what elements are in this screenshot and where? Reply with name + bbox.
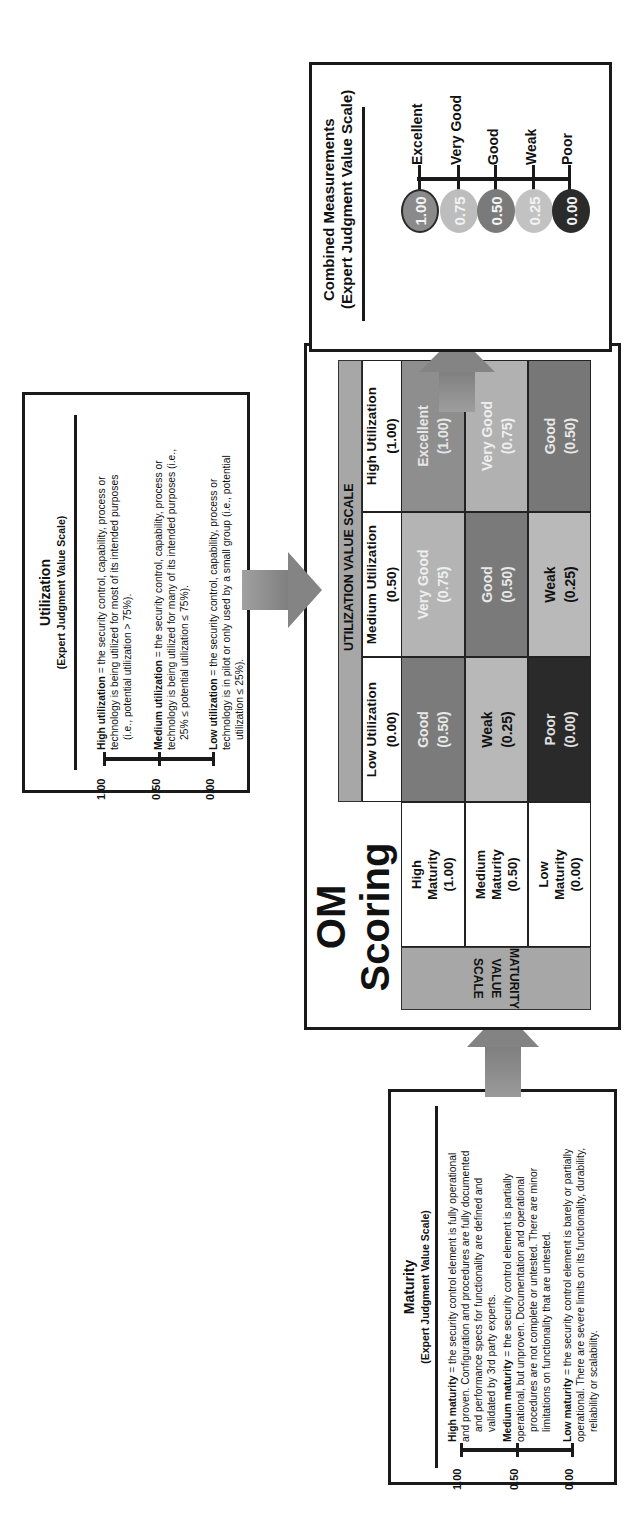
cell-score: (0.75) xyxy=(433,566,453,603)
row-header-medium-maturity: Medium Maturity (0.50) xyxy=(465,802,528,947)
desc-line: = the security control, capability, proc… xyxy=(96,476,107,676)
score-circle-0-00: 0.00 xyxy=(552,189,590,233)
utilization-high-desc: High utilization = the security control,… xyxy=(95,395,134,750)
combined-tick xyxy=(568,165,571,191)
combined-tick xyxy=(457,165,460,191)
desc-line: = the security control, capability, proc… xyxy=(153,460,164,660)
maturity-subtitle: (Expert Judgment Value Scale) xyxy=(419,1092,431,1482)
score-circle-1-00: 1.00 xyxy=(401,189,439,233)
cell-high-maturity-medium-utilization: Very Good (0.75) xyxy=(401,512,465,657)
utilization-value-low: 0.00 xyxy=(204,779,216,800)
utilization-tick-0 xyxy=(212,752,215,766)
cell-rating: Good xyxy=(413,711,433,748)
maturity-title-rule xyxy=(435,1106,438,1468)
score-circle-0-75: 0.75 xyxy=(440,189,478,233)
cell-score: (0.25) xyxy=(497,711,517,748)
row-header-low-maturity: Low Maturity (0.00) xyxy=(528,802,591,947)
utilization-value-high: 1.00 xyxy=(95,779,107,800)
om-scoring-matrix-box: OM Scoring Matrix MATURITY VALUE SCALE H… xyxy=(304,343,621,1030)
maturity-header-line1: MATURITY xyxy=(505,948,523,1009)
col-value: (0.00) xyxy=(382,712,402,747)
desc-line: limitations on functionality that are un… xyxy=(540,1092,553,1442)
desc-line: technology is being utilized for most of… xyxy=(108,395,121,750)
cell-score: (0.75) xyxy=(497,418,517,455)
maturity-medium-term: Medium maturity xyxy=(502,1360,513,1442)
combined-title-rule xyxy=(362,107,365,321)
col-header-medium-utilization: Medium Utilization (0.50) xyxy=(362,512,402,657)
circle-value: 0.75 xyxy=(451,196,468,225)
cell-low-maturity-medium-utilization: Weak (0.25) xyxy=(528,512,591,657)
row-label: Maturity xyxy=(489,849,505,900)
col-label: High Utilization xyxy=(362,387,382,485)
row-label: High xyxy=(409,860,425,889)
utilization-tick-050 xyxy=(158,752,161,766)
utilization-low-term: Low utilization xyxy=(208,679,219,751)
combined-label-good: Good xyxy=(485,128,501,165)
maturity-title: Maturity xyxy=(401,1092,417,1482)
cell-rating: Very Good xyxy=(413,549,433,619)
desc-line: = the security control, capability, proc… xyxy=(208,479,219,679)
utilization-title: Utilization xyxy=(37,395,53,790)
cell-rating: Good xyxy=(540,418,560,455)
maturity-high-term: High maturity xyxy=(447,1376,458,1442)
cell-low-maturity-high-utilization: Good (0.50) xyxy=(528,360,591,512)
cell-high-maturity-low-utilization: Good (0.50) xyxy=(401,657,465,802)
maturity-tick-1 xyxy=(460,1443,463,1457)
col-header-high-utilization: High Utilization (1.00) xyxy=(362,360,402,512)
row-label: Maturity xyxy=(425,849,441,900)
cell-rating: Weak xyxy=(540,566,560,602)
row-label: Low xyxy=(536,862,552,888)
combined-label-excellent: Excellent xyxy=(409,104,425,165)
row-value: (0.00) xyxy=(568,858,584,892)
cell-score: (1.00) xyxy=(433,418,453,455)
col-label: Low Utilization xyxy=(362,682,382,777)
cell-rating: Good xyxy=(477,566,497,603)
combined-tick xyxy=(532,165,535,191)
cell-rating: Weak xyxy=(477,711,497,747)
matrix-title-line1: OM Scoring xyxy=(309,817,397,1017)
desc-line: procedures are not complete or untested.… xyxy=(527,1092,540,1442)
maturity-value-scale-header: MATURITY VALUE SCALE xyxy=(401,947,591,1010)
desc-line: = the security control element is barely… xyxy=(562,1149,573,1378)
desc-line: (i.e., potential utilization > 75%). xyxy=(121,395,134,750)
maturity-tick-050 xyxy=(516,1443,519,1457)
cell-medium-maturity-low-utilization: Weak (0.25) xyxy=(465,657,528,802)
utilization-title-rule xyxy=(74,415,77,770)
maturity-medium-desc: Medium maturity = the security control e… xyxy=(501,1092,553,1442)
circle-value: 1.00 xyxy=(412,196,429,225)
utilization-high-term: High utilization xyxy=(96,676,107,750)
cell-score: (0.50) xyxy=(560,418,580,455)
maturity-scale-box: Maturity (Expert Judgment Value Scale) 1… xyxy=(388,1089,617,1485)
desc-line: technology is being utilized for many of… xyxy=(165,395,178,750)
row-label: Maturity xyxy=(552,849,568,900)
maturity-high-desc: High maturity = the security control ele… xyxy=(446,1092,498,1442)
desc-line: technology is in pilot or only used by a… xyxy=(220,395,233,750)
utilization-medium-term: Medium utilization xyxy=(153,660,164,750)
utilization-scale-box: Utilization (Expert Judgment Value Scale… xyxy=(22,392,250,793)
row-value: (1.00) xyxy=(441,858,457,892)
cell-low-maturity-low-utilization: Poor (0.00) xyxy=(528,657,591,802)
desc-line: operational, but unproven. Documentation… xyxy=(514,1092,527,1442)
desc-line: validated by 3rd party experts. xyxy=(485,1092,498,1442)
combined-tick xyxy=(418,165,421,191)
combined-title: Combined Measurements (Expert Judgment V… xyxy=(320,90,356,309)
desc-line: operational. There are severe limits on … xyxy=(574,1092,587,1442)
combined-label-poor: Poor xyxy=(559,133,575,165)
cell-score: (0.50) xyxy=(497,566,517,603)
combined-measurements-box: Combined Measurements (Expert Judgment V… xyxy=(309,62,612,352)
desc-line: = the security control element is partia… xyxy=(502,1173,513,1359)
maturity-value-high: 1.00 xyxy=(451,1469,463,1490)
utilization-tick-1 xyxy=(103,752,106,766)
desc-line: and proven. Configuration and procedures… xyxy=(459,1092,472,1442)
cell-rating: Excellent xyxy=(413,405,433,466)
cell-score: (0.50) xyxy=(433,711,453,748)
maturity-tick-0 xyxy=(571,1443,574,1457)
maturity-low-term: Low maturity xyxy=(562,1378,573,1442)
maturity-value-low: 0.00 xyxy=(563,1469,575,1490)
diagram-canvas: Maturity (Expert Judgment Value Scale) 1… xyxy=(0,0,632,1517)
utilization-medium-desc: Medium utilization = the security contro… xyxy=(152,395,191,750)
score-circle-0-50: 0.50 xyxy=(477,189,515,233)
utilization-low-desc: Low utilization = the security control, … xyxy=(207,395,246,750)
cell-rating: Poor xyxy=(540,714,560,746)
row-value: (0.50) xyxy=(505,858,521,892)
